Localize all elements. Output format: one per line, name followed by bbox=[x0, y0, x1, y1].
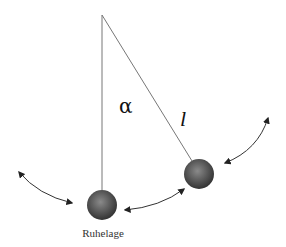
bob-rest bbox=[87, 190, 117, 220]
swing-arrow-left bbox=[19, 172, 72, 203]
length-label: l bbox=[180, 106, 186, 131]
rest-position-label: Ruhelage bbox=[82, 227, 124, 239]
pendulum-diagram: α l Ruhelage bbox=[0, 0, 286, 247]
deflected-string bbox=[102, 15, 192, 161]
bob-deflected bbox=[184, 159, 214, 189]
swing-arrow-middle bbox=[125, 189, 184, 210]
swing-arrow-right bbox=[225, 118, 268, 163]
angle-label: α bbox=[119, 94, 133, 118]
